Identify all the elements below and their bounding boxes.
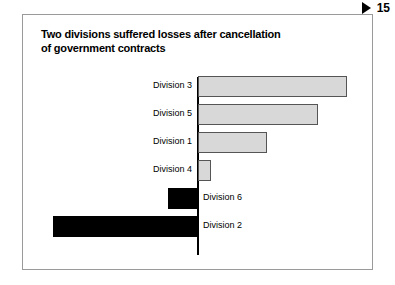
bar-positive	[198, 132, 267, 153]
bar-positive	[198, 104, 318, 125]
table-row: Division 6	[23, 185, 374, 213]
bar-negative	[53, 216, 198, 237]
bar-label: Division 5	[153, 107, 192, 119]
bar-chart: Division 3 Division 5 Division 1 Divisio…	[23, 73, 374, 269]
bar-positive	[198, 160, 211, 181]
table-row: Division 5	[23, 101, 374, 129]
bar-label: Division 6	[203, 191, 242, 203]
bar-label: Division 1	[153, 135, 192, 147]
bar-label: Division 3	[153, 79, 192, 91]
page-title: Two divisions suffered losses after canc…	[41, 27, 331, 55]
table-row: Division 3	[23, 73, 374, 101]
table-row: Division 4	[23, 157, 374, 185]
bar-label: Division 4	[153, 163, 192, 175]
table-row: Division 2	[23, 213, 374, 241]
table-row: Division 1	[23, 129, 374, 157]
bar-positive	[198, 76, 347, 97]
slide-frame: Two divisions suffered losses after canc…	[22, 14, 373, 270]
play-triangle-icon	[362, 2, 371, 14]
bar-label: Division 2	[203, 219, 242, 231]
page-number: 15	[377, 2, 390, 14]
bar-negative	[168, 188, 198, 209]
